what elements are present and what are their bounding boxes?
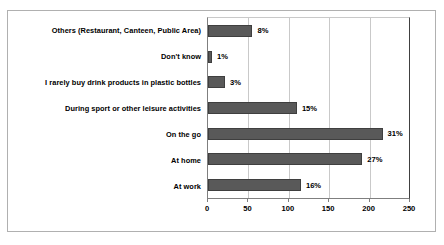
axis-tick-mark <box>409 199 410 202</box>
bar-row: 31% <box>208 121 409 147</box>
bar-data-label: 27% <box>367 155 382 164</box>
bar <box>208 51 212 63</box>
category-label: I rarely buy drink products in plastic b… <box>8 69 207 95</box>
category-label: On the go <box>8 121 207 147</box>
axis-tick-mark <box>369 199 370 202</box>
axis-tick-mark <box>288 199 289 202</box>
plot-area: 8% 1% 3% 15% 31% 27% <box>207 17 410 199</box>
category-label: During sport or other leisure activities <box>8 95 207 121</box>
x-axis: 050100150200250 <box>207 199 410 221</box>
category-label: Don't know <box>8 43 207 69</box>
category-axis-labels: Others (Restaurant, Canteen, Public Area… <box>8 17 207 199</box>
category-label: Others (Restaurant, Canteen, Public Area… <box>8 17 207 43</box>
bar-data-label: 16% <box>306 181 321 190</box>
bars-layer: 8% 1% 3% 15% 31% 27% <box>208 18 409 198</box>
chart-frame: Others (Restaurant, Canteen, Public Area… <box>7 10 436 232</box>
bar-data-label: 3% <box>230 78 241 87</box>
axis-tick-label: 150 <box>322 204 335 213</box>
axis-tick-label: 100 <box>281 204 294 213</box>
bar-row: 8% <box>208 18 409 44</box>
bar-data-label: 15% <box>302 104 317 113</box>
bar <box>208 128 383 140</box>
axis-tick-label: 50 <box>243 204 251 213</box>
category-label: At home <box>8 147 207 173</box>
bar-data-label: 1% <box>217 52 228 61</box>
axis-tick-mark <box>328 199 329 202</box>
bar <box>208 153 362 165</box>
bar-row: 1% <box>208 44 409 70</box>
bar <box>208 76 225 88</box>
bar <box>208 179 301 191</box>
axis-tick-label: 250 <box>403 204 416 213</box>
axis-tick-mark <box>207 199 208 202</box>
bar-row: 3% <box>208 69 409 95</box>
axis-tick-label: 0 <box>205 204 209 213</box>
category-label: At work <box>8 173 207 199</box>
axis-tick-label: 200 <box>362 204 375 213</box>
bar-data-label: 8% <box>257 26 268 35</box>
axis-tick-mark <box>247 199 248 202</box>
bar <box>208 25 252 37</box>
bar <box>208 102 297 114</box>
bar-row: 16% <box>208 172 409 198</box>
bar-data-label: 31% <box>388 129 403 138</box>
bar-row: 15% <box>208 95 409 121</box>
bar-row: 27% <box>208 147 409 173</box>
